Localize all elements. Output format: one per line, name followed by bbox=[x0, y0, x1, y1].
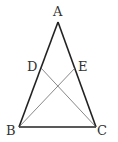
label-b: B bbox=[6, 123, 16, 138]
side-ac bbox=[58, 22, 96, 127]
label-c: C bbox=[97, 123, 107, 138]
label-e: E bbox=[78, 59, 88, 74]
label-d: D bbox=[27, 59, 37, 74]
label-a: A bbox=[52, 4, 63, 19]
segment-cd bbox=[41, 68, 96, 127]
triangle-diagram: A D E B C bbox=[0, 0, 118, 142]
segment-be bbox=[19, 68, 75, 127]
side-ab bbox=[19, 22, 58, 127]
